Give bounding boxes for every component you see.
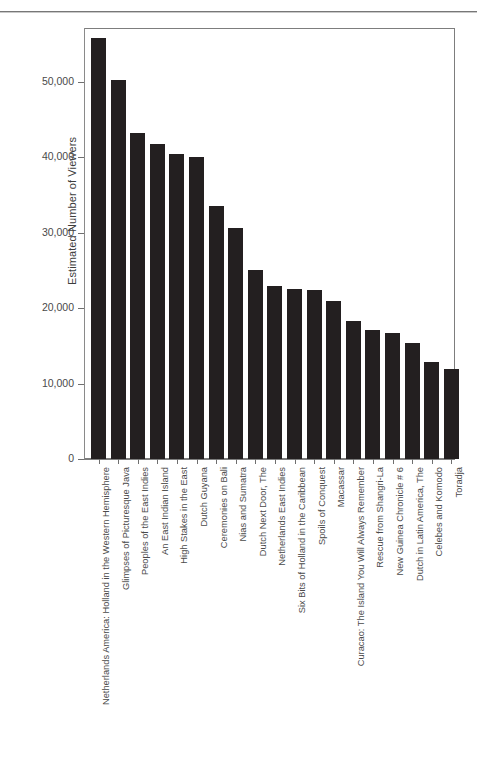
bar	[91, 38, 106, 459]
x-axis-tick	[314, 459, 315, 464]
bar	[405, 343, 420, 459]
x-axis-tick-label: Macassar	[337, 467, 346, 707]
x-axis-tick-label: Peoples of the East Indies	[141, 467, 150, 707]
y-axis-title-wrap: Estimated Number of Viewers	[28, 0, 29, 758]
x-axis-tick	[451, 459, 452, 464]
x-axis-tick-label: Spoils of Conquest	[318, 467, 327, 707]
bars-container	[85, 29, 454, 459]
x-axis-tick-label: An East Indian Island	[161, 467, 170, 707]
bar	[444, 369, 459, 459]
x-axis-tick	[255, 459, 256, 464]
bar-chart-figure: 010,00020,00030,00040,00050,000 Estimate…	[0, 0, 477, 758]
x-axis-tick	[216, 459, 217, 464]
bar	[307, 290, 322, 459]
x-axis-tick	[412, 459, 413, 464]
x-axis-tick	[373, 459, 374, 464]
x-axis-tick-label: Six Bits of Holland in the Caribbean	[298, 467, 307, 707]
x-axis-tick-label: Dutch Guyana	[200, 467, 209, 707]
x-axis-tick	[177, 459, 178, 464]
bar	[228, 228, 243, 459]
x-axis-tick-label: High Stakes in the East	[180, 467, 189, 707]
bar	[326, 301, 341, 459]
x-axis-tick-label: Nias and Sumatra	[239, 467, 248, 707]
y-axis-line	[84, 28, 85, 459]
x-axis-tick	[393, 459, 394, 464]
x-axis-tick-label: Glimpses of Picturesque Java	[122, 467, 131, 707]
x-axis-tick-label: Ceremonies on Bali	[220, 467, 229, 707]
y-axis-tick	[78, 233, 84, 234]
y-axis-tick-label: 40,000	[2, 151, 74, 162]
bar	[248, 270, 263, 459]
x-axis-tick	[99, 459, 100, 464]
x-axis-line	[84, 459, 455, 460]
x-axis-tick-label: Dutch in Latin America, The	[416, 467, 425, 707]
bar	[209, 206, 224, 459]
bar	[169, 154, 184, 459]
bar	[189, 157, 204, 460]
x-axis-tick	[118, 459, 119, 464]
y-axis-tick	[78, 82, 84, 83]
x-axis-tick	[197, 459, 198, 464]
y-axis-tick-label: 30,000	[2, 227, 74, 238]
x-axis-tick-label: Toradja	[455, 467, 464, 707]
x-axis-tick	[432, 459, 433, 464]
x-axis-tick-label: Dutch Next Door, The	[259, 467, 268, 707]
bar	[111, 80, 126, 459]
y-axis-tick-label: 10,000	[2, 378, 74, 389]
y-axis-tick-label: 0	[2, 453, 74, 464]
x-axis-tick-label: Curacao: The Island You Will Always Reme…	[357, 467, 366, 707]
y-axis-title: Estimated Number of Viewers	[66, 91, 78, 331]
bar	[130, 133, 145, 459]
x-axis-tick	[157, 459, 158, 464]
bar	[150, 144, 165, 459]
x-axis-tick-label: Rescue from Shangri-La	[376, 467, 385, 707]
x-axis-tick-label: Netherlands America: Holland in the West…	[102, 467, 111, 707]
y-axis-tick-label: 50,000	[2, 76, 74, 87]
x-axis-tick	[275, 459, 276, 464]
x-axis-tick-label: Netherlands East Indies	[278, 467, 287, 707]
x-axis-tick-label: New Guinea Chronicle # 6	[396, 467, 405, 707]
y-axis-tick	[78, 384, 84, 385]
x-axis-tick	[295, 459, 296, 464]
y-axis-tick	[78, 157, 84, 158]
x-axis-tick	[138, 459, 139, 464]
bar	[287, 289, 302, 459]
bar	[385, 333, 400, 459]
bar	[365, 330, 380, 459]
bar	[346, 321, 361, 459]
x-axis-tick	[236, 459, 237, 464]
x-axis-tick	[353, 459, 354, 464]
bar	[267, 286, 282, 459]
x-axis-tick-label: Celebes and Komodo	[435, 467, 444, 707]
y-axis-tick-label: 20,000	[2, 302, 74, 313]
x-axis-tick	[334, 459, 335, 464]
bar	[424, 362, 439, 459]
y-axis-tick	[78, 308, 84, 309]
y-axis-tick-labels: 010,00020,00030,00040,00050,000	[0, 0, 74, 758]
